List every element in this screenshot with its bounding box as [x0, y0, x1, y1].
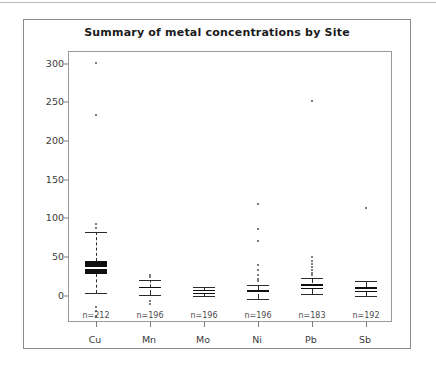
x-axis-label-ni: Ni [252, 334, 262, 345]
plot-inner: n=212n=196n=196n=196n=183n=192 [69, 52, 391, 321]
outlier-point [365, 207, 367, 209]
x-tick-mark [204, 321, 205, 327]
plot-area: n=212n=196n=196n=196n=183n=192 [68, 51, 392, 322]
median-line [355, 289, 377, 291]
x-tick-mark [258, 321, 259, 327]
x-tick-mark [150, 321, 151, 327]
cap-upper [355, 281, 377, 282]
top-divider [0, 2, 436, 3]
cap-lower [355, 296, 377, 297]
x-axis-label-pb: Pb [305, 334, 317, 345]
boxplot-sb [69, 52, 393, 321]
x-tick-mark [312, 321, 313, 327]
y-tick-label: 200 [46, 135, 64, 146]
y-tick-label: 100 [46, 212, 64, 223]
y-tick-label: 250 [46, 96, 64, 107]
chart-title: Summary of metal concentrations by Site [23, 26, 411, 39]
x-tick-mark [366, 321, 367, 327]
x-axis-label-mn: Mn [142, 334, 156, 345]
y-tick-label: 300 [46, 57, 64, 68]
x-axis-label-cu: Cu [89, 334, 102, 345]
y-tick-label: 150 [46, 173, 64, 184]
x-tick-mark [96, 321, 97, 327]
x-axis-label-mo: Mo [196, 334, 210, 345]
x-axis-label-sb: Sb [359, 334, 371, 345]
sample-size-label-sb: n=192 [352, 311, 379, 320]
y-axis-labels: 050100150200250300 [24, 51, 64, 322]
y-tick-label: 50 [52, 251, 64, 262]
